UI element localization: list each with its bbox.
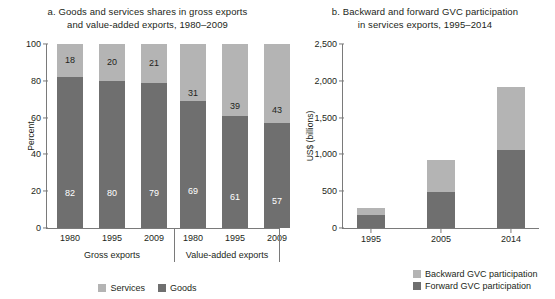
bar-gvc-1995-forward — [357, 215, 385, 228]
bar-valueadded-1980-goods-value: 69 — [188, 187, 198, 196]
bar-valueadded-2009-goods: 57 — [264, 123, 290, 228]
group-separator-right — [279, 228, 280, 262]
bar-valueadded-2009-goods-value: 57 — [272, 197, 282, 206]
panel-b-ytick-500: 500 — [322, 186, 343, 196]
bar-gvc-2005-backward — [427, 160, 455, 192]
panel-a-legend: Services Goods — [0, 283, 295, 293]
legend-item-services[interactable]: Services — [98, 283, 145, 293]
xtick-gross-2009: 2009 — [144, 233, 164, 243]
bar-gvc-2005[interactable] — [427, 160, 455, 228]
bar-gross-1995-services: 20 — [99, 44, 125, 81]
panel-a-title-line1: a. Goods and services shares in gross ex… — [0, 6, 295, 19]
bar-gvc-2014-backward — [497, 87, 525, 150]
bar-gross-2009-goods: 79 — [141, 83, 167, 228]
bar-gross-2009-goods-value: 79 — [149, 189, 159, 198]
bar-valueadded-1980-services: 31 — [180, 44, 206, 101]
xtick-valueadded-2009: 2009 — [267, 233, 287, 243]
bar-gross-1980-services: 18 — [57, 44, 83, 77]
panel-a-plot-area: Percent 100 80 60 40 20 0 18 82 1980 — [46, 44, 279, 229]
legend-swatch-forward-gvc-icon — [413, 282, 421, 290]
group-label-value-added-exports: Value-added exports — [186, 250, 268, 260]
panel-b-bars: 1995 2005 2014 — [343, 44, 539, 228]
panel-b-ytick-1500: 1,500 — [314, 113, 343, 123]
bar-gross-2009-services: 21 — [141, 44, 167, 83]
legend-label-services: Services — [110, 283, 145, 293]
panel-a-bars: 18 82 1980 20 80 1995 — [47, 44, 279, 228]
figure-container: a. Goods and services shares in gross ex… — [0, 0, 555, 299]
bar-valueadded-1980-goods: 69 — [180, 101, 206, 228]
bar-valueadded-2009-services: 43 — [264, 44, 290, 123]
panel-b-ytick-1000: 1,000 — [314, 149, 343, 159]
bar-gvc-2014[interactable] — [497, 87, 525, 228]
legend-item-goods[interactable]: Goods — [158, 283, 197, 293]
panel-a-ytick-40: 40 — [31, 149, 47, 159]
panel-b-ytick-2500: 2,500 — [314, 39, 343, 49]
panel-b-title-line2: in services exports, 1995–2014 — [295, 19, 555, 32]
bar-valueadded-1995-services-value: 39 — [230, 102, 240, 111]
xtick-gross-1980: 1980 — [60, 233, 80, 243]
panel-a-ytick-20: 20 — [31, 186, 47, 196]
legend-swatch-backward-gvc-icon — [413, 270, 421, 278]
bar-gross-2009-services-value: 21 — [149, 59, 159, 68]
bar-gross-1995-goods: 80 — [99, 81, 125, 228]
bar-gross-1995[interactable]: 20 80 1995 — [99, 44, 125, 228]
xtick-gross-1995: 1995 — [102, 233, 122, 243]
xtick-valueadded-1980: 1980 — [183, 233, 203, 243]
bar-gross-1980-goods: 82 — [57, 77, 83, 228]
bar-valueadded-1980[interactable]: 31 69 1980 — [180, 44, 206, 228]
bar-valueadded-1995-goods-value: 61 — [230, 193, 240, 202]
bar-valueadded-1995-services: 39 — [222, 44, 248, 116]
panel-b-gvc-participation: b. Backward and forward GVC participatio… — [295, 0, 555, 299]
bar-gvc-1995[interactable] — [357, 208, 385, 228]
panel-b-ytick-2000: 2,000 — [314, 76, 343, 86]
bar-gross-1995-services-value: 20 — [107, 58, 117, 67]
bar-valueadded-2009-services-value: 43 — [272, 106, 282, 115]
group-label-gross-exports: Gross exports — [84, 250, 140, 260]
legend-label-goods: Goods — [170, 283, 197, 293]
bar-gross-1995-goods-value: 80 — [107, 189, 117, 198]
legend-label-forward-gvc: Forward GVC participation — [425, 281, 531, 291]
panel-a-goods-services-shares: a. Goods and services shares in gross ex… — [0, 0, 295, 299]
panel-a-ytick-80: 80 — [31, 76, 47, 86]
bar-gvc-2014-forward — [497, 150, 525, 228]
panel-a-ytick-60: 60 — [31, 113, 47, 123]
bar-valueadded-1980-services-value: 31 — [188, 89, 198, 98]
group-separator-middle — [174, 228, 175, 262]
panel-b-title: b. Backward and forward GVC participatio… — [295, 6, 555, 31]
panel-b-ytick-0: 0 — [332, 223, 343, 233]
bar-valueadded-1995-goods: 61 — [222, 116, 248, 228]
bar-gvc-1995-backward — [357, 208, 385, 216]
bar-gross-1980[interactable]: 18 82 1980 — [57, 44, 83, 228]
bar-gross-2009[interactable]: 21 79 2009 — [141, 44, 167, 228]
panel-b-plot-area: US$ (billions) 2,500 2,000 1,500 1,000 5… — [342, 44, 539, 229]
bar-gross-1980-goods-value: 82 — [65, 189, 75, 198]
panel-a-ytick-0: 0 — [36, 223, 47, 233]
panel-b-title-line1: b. Backward and forward GVC participatio… — [295, 6, 555, 19]
bar-valueadded-2009[interactable]: 43 57 2009 — [264, 44, 290, 228]
panel-a-title: a. Goods and services shares in gross ex… — [0, 6, 295, 31]
legend-swatch-goods-icon — [158, 284, 166, 292]
panel-a-y-axis-label: Percent — [26, 121, 36, 150]
legend-item-backward-gvc[interactable]: Backward GVC participation — [413, 269, 538, 279]
panel-a-ytick-100: 100 — [26, 39, 47, 49]
legend-swatch-services-icon — [98, 284, 106, 292]
panel-a-title-line2: and value-added exports, 1980–2009 — [0, 19, 295, 32]
bar-gross-1980-services-value: 18 — [65, 56, 75, 65]
panel-b-legend: Backward GVC participation Forward GVC p… — [413, 269, 538, 292]
legend-item-forward-gvc[interactable]: Forward GVC participation — [413, 281, 538, 291]
bar-valueadded-1995[interactable]: 39 61 1995 — [222, 44, 248, 228]
legend-label-backward-gvc: Backward GVC participation — [425, 269, 538, 279]
bar-gvc-2005-forward — [427, 192, 455, 228]
xtick-valueadded-1995: 1995 — [225, 233, 245, 243]
